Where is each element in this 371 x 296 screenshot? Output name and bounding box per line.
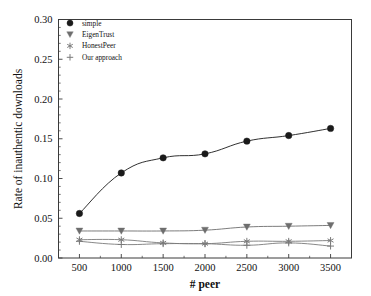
y-tick-label: 0.10 [34, 173, 52, 184]
x-tick-label: 3500 [320, 262, 341, 273]
legend-label: EigenTrust [82, 30, 114, 39]
chart-figure: 0.000.050.100.150.200.250.30 50010001500… [0, 0, 371, 296]
y-axis-title: Rate of inauthentic downloads [12, 68, 24, 209]
x-tick-label: 2000 [195, 262, 216, 273]
x-tick-label: 1500 [153, 262, 174, 273]
x-tick-label: 1000 [111, 262, 132, 273]
legend-label: simple [82, 19, 101, 28]
y-tick-label: 0.30 [34, 14, 52, 25]
x-tick-label: 500 [72, 262, 88, 273]
legend-label: HonestPeer [82, 41, 116, 50]
line-chart: 0.000.050.100.150.200.250.30 50010001500… [0, 0, 371, 296]
x-tick-label: 2500 [236, 262, 257, 273]
chart-background [0, 0, 371, 296]
y-tick-label: 0.20 [34, 94, 52, 105]
x-tick-label: 3000 [278, 262, 299, 273]
x-axis-title: # peer [190, 278, 220, 291]
y-tick-label: 0.15 [34, 133, 52, 144]
y-tick-label: 0.00 [34, 253, 52, 264]
y-tick-label: 0.05 [34, 213, 52, 224]
legend-marker-circle-icon [67, 20, 73, 26]
y-tick-label: 0.25 [34, 54, 52, 65]
legend-label: Our approach [82, 53, 122, 62]
